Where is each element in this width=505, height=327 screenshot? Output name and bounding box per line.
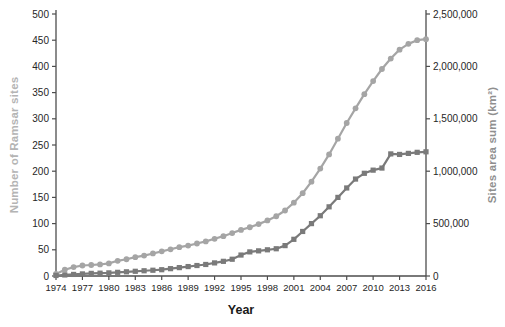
data-point-sites-count	[238, 227, 244, 233]
x-axis-tick-label: 2010	[363, 282, 384, 293]
data-point-area-sum	[141, 268, 146, 273]
data-point-area-sum	[62, 272, 67, 277]
data-point-area-sum	[89, 271, 94, 276]
left-axis-tick-label: 300	[32, 113, 49, 124]
data-point-sites-count	[220, 233, 226, 239]
data-point-sites-count	[397, 47, 403, 53]
data-point-sites-count	[300, 190, 306, 196]
data-point-sites-count	[203, 239, 209, 245]
data-point-area-sum	[238, 252, 243, 257]
data-point-area-sum	[274, 246, 279, 251]
data-point-area-sum	[344, 185, 349, 190]
data-point-area-sum	[97, 271, 102, 276]
left-axis-tick-label: 250	[32, 140, 49, 151]
data-point-sites-count	[370, 78, 376, 84]
data-point-area-sum	[168, 266, 173, 271]
data-point-area-sum	[106, 270, 111, 275]
data-point-sites-count	[344, 120, 350, 126]
data-point-area-sum	[379, 165, 384, 170]
data-point-sites-count	[141, 253, 147, 259]
data-point-sites-count	[115, 258, 121, 264]
x-axis-tick-label: 1983	[125, 282, 146, 293]
x-axis-tick-label: 2007	[336, 282, 357, 293]
left-axis-tick-label: 350	[32, 87, 49, 98]
data-point-sites-count	[71, 264, 77, 270]
data-point-area-sum	[415, 150, 420, 155]
left-axis-tick-label: 200	[32, 166, 49, 177]
data-point-sites-count	[317, 166, 323, 172]
series-line-sites-count	[56, 39, 426, 274]
data-point-sites-count	[353, 105, 359, 111]
data-point-area-sum	[318, 213, 323, 218]
data-point-area-sum	[203, 262, 208, 267]
x-axis-tick-label: 1980	[98, 282, 119, 293]
data-point-sites-count	[97, 262, 103, 268]
data-point-area-sum	[71, 272, 76, 277]
x-axis-tick-label: 2013	[389, 282, 410, 293]
data-point-area-sum	[291, 237, 296, 242]
data-point-sites-count	[168, 246, 174, 252]
data-point-sites-count	[309, 179, 315, 185]
chart-figure: 0501001502002503003504004505000500,0001,…	[0, 0, 505, 327]
left-axis-tick-label: 100	[32, 218, 49, 229]
data-point-sites-count	[265, 218, 271, 224]
data-point-area-sum	[212, 260, 217, 265]
left-axis-tick-label: 50	[38, 244, 50, 255]
data-point-sites-count	[124, 256, 130, 262]
left-axis-tick-label: 150	[32, 192, 49, 203]
right-axis-tick-label: 2,500,000	[433, 9, 478, 20]
left-axis-tick-label: 500	[32, 9, 49, 20]
data-point-sites-count	[361, 91, 367, 97]
data-point-area-sum	[362, 171, 367, 176]
data-point-area-sum	[133, 269, 138, 274]
data-point-area-sum	[353, 176, 358, 181]
data-point-sites-count	[256, 221, 262, 227]
x-axis-tick-label: 1995	[230, 282, 251, 293]
data-point-area-sum	[80, 271, 85, 276]
data-point-area-sum	[256, 248, 261, 253]
data-point-area-sum	[265, 247, 270, 252]
data-point-sites-count	[423, 36, 429, 42]
left-axis-tick-label: 0	[43, 271, 49, 282]
data-point-area-sum	[247, 249, 252, 254]
data-point-area-sum	[397, 152, 402, 157]
data-point-sites-count	[150, 251, 156, 257]
data-point-sites-count	[247, 224, 253, 230]
data-point-sites-count	[62, 267, 68, 273]
data-point-area-sum	[124, 269, 129, 274]
right-axis-tick-label: 2,000,000	[433, 61, 478, 72]
x-axis-tick-label: 1998	[257, 282, 278, 293]
data-point-sites-count	[212, 236, 218, 242]
x-axis-tick-label: 1989	[178, 282, 199, 293]
data-point-area-sum	[309, 221, 314, 226]
data-point-sites-count	[282, 208, 288, 214]
x-axis-title: Year	[56, 303, 426, 317]
x-axis-tick-label: 1977	[72, 282, 93, 293]
right-axis-tick-label: 1,500,000	[433, 113, 478, 124]
data-point-sites-count	[273, 213, 279, 219]
data-point-sites-count	[335, 136, 341, 142]
data-point-area-sum	[371, 168, 376, 173]
data-point-sites-count	[185, 243, 191, 249]
data-point-sites-count	[405, 41, 411, 47]
data-point-sites-count	[159, 248, 165, 254]
left-axis-title: Number of Ramsar sites	[8, 35, 20, 255]
data-point-sites-count	[80, 263, 86, 269]
data-point-sites-count	[291, 200, 297, 206]
x-axis-tick-label: 1986	[151, 282, 172, 293]
data-point-area-sum	[150, 268, 155, 273]
right-axis-title: Sites area sum (km²)	[486, 35, 498, 255]
data-point-sites-count	[88, 262, 94, 268]
data-point-sites-count	[414, 37, 420, 43]
data-point-sites-count	[176, 244, 182, 250]
x-axis-tick-label: 2001	[283, 282, 304, 293]
data-point-area-sum	[221, 259, 226, 264]
x-axis-tick-label: 1992	[204, 282, 225, 293]
data-point-area-sum	[406, 151, 411, 156]
data-point-area-sum	[326, 204, 331, 209]
data-point-sites-count	[106, 261, 112, 267]
ramsar-sites-chart: 0501001502002503003504004505000500,0001,…	[0, 0, 505, 327]
right-axis-tick-label: 0	[433, 271, 439, 282]
data-point-area-sum	[423, 149, 428, 154]
data-point-area-sum	[186, 264, 191, 269]
